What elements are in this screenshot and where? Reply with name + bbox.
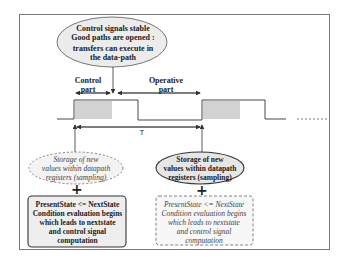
left-state-text: PresentState <= NextState Condition eval… [30,200,125,245]
right-sampling-line-1: Storage of new [157,155,243,164]
operative-label-line-2: part [136,85,196,94]
callout-line-4: the data-path [62,53,164,62]
control-shade-2 [203,101,240,119]
right-state-line-3: which leads to nextstate [157,218,251,227]
right-state-text: PresentState <= NextState Condition eval… [157,200,251,245]
left-plus-symbol: + [71,182,83,196]
left-sampling-line-1: Storage of new [32,155,120,164]
right-state-line-1: PresentState <= NextState [157,200,251,209]
right-state-line-2: Condition evaluation begins [157,209,251,218]
control-label-line-1: Control [68,76,108,85]
operative-label-line-1: Operative [136,76,196,85]
left-state-line-3: which leads to nextstate [30,218,125,227]
right-state-line-4: and control signal [157,227,251,236]
callout-line-2: Good paths are opened : [62,33,164,42]
left-state-line-5: computation [30,236,125,245]
right-state-line-5: computation [157,236,251,245]
control-label-line-2: part [68,85,108,94]
left-state-line-2: Condition evaluation begins [30,209,125,218]
callout-line-1: Control signals stable [62,24,164,33]
operative-part-label: Operative part [136,76,196,94]
left-sampling-text: Storage of new values within datapath re… [32,155,120,182]
control-part-label: Control part [68,76,108,94]
left-state-line-1: PresentState <= NextState [30,200,125,209]
callout-line-3: transfers can execute in [62,44,164,53]
top-callout-text: Control signals stable Good paths are op… [62,24,164,62]
right-sampling-line-3: registers (sampling) [157,173,243,182]
period-label: T [136,129,148,138]
right-sampling-text: Storage of new values within datapath re… [157,155,243,182]
control-shade-1 [75,101,112,119]
left-state-line-4: and control signal [30,227,125,236]
right-sampling-line-2: values within datapath [157,164,243,173]
right-plus-symbol: + [196,183,208,197]
left-sampling-line-2: values within datapath [32,164,120,173]
